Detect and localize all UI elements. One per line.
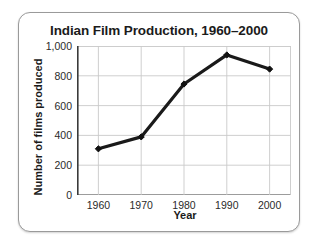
y-tick-label: 800	[54, 70, 72, 82]
y-tick-label: 0	[66, 189, 72, 201]
plot-area: 02004006008001,000 19601970198019902000	[77, 46, 291, 195]
y-tick-label: 1,000	[46, 40, 72, 52]
chart-title: Indian Film Production, 1960–2000	[19, 23, 299, 38]
y-tick-label: 600	[54, 100, 72, 112]
x-axis-title: Year	[75, 209, 295, 221]
y-tick-label: 400	[54, 129, 72, 141]
y-axis-title: Number of films produced	[32, 52, 44, 202]
y-tick-label: 200	[54, 159, 72, 171]
line-chart-svg	[77, 46, 291, 195]
screenshot-root: Indian Film Production, 1960–2000 Number…	[0, 0, 312, 245]
chart-card: Indian Film Production, 1960–2000 Number…	[18, 12, 300, 232]
